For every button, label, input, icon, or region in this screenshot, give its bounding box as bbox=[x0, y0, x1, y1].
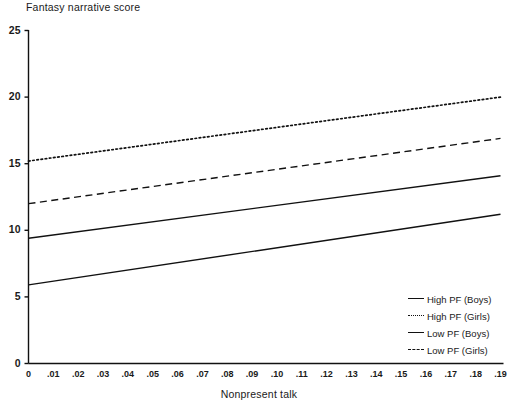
series-line bbox=[29, 214, 501, 285]
x-tick-label: .09 bbox=[238, 369, 266, 379]
x-tick-label: .02 bbox=[64, 369, 92, 379]
series-line bbox=[29, 176, 501, 239]
x-tick-label: .14 bbox=[362, 369, 390, 379]
x-tick-label: .15 bbox=[387, 369, 415, 379]
legend-item: High PF (Boys) bbox=[408, 291, 491, 307]
legend-line-sample-icon bbox=[408, 329, 424, 337]
x-tick-label: .12 bbox=[313, 369, 341, 379]
legend-line-sample-icon bbox=[408, 312, 424, 320]
x-tick-label: 0 bbox=[15, 369, 43, 379]
legend-line-sample-icon bbox=[408, 346, 424, 354]
x-tick-label: .18 bbox=[462, 369, 490, 379]
x-tick-label: .16 bbox=[412, 369, 440, 379]
legend-line-sample-icon bbox=[408, 295, 424, 303]
legend-item: Low PF (Boys) bbox=[408, 325, 489, 341]
x-tick-label: .01 bbox=[39, 369, 67, 379]
x-tick-label: .10 bbox=[263, 369, 291, 379]
x-axis-title: Nonpresent talk bbox=[0, 388, 518, 400]
y-tick-label: 20 bbox=[0, 90, 21, 102]
line-chart: Fantasy narrative score 0510152025 0.01.… bbox=[0, 0, 518, 409]
y-tick-label: 0 bbox=[0, 357, 21, 369]
x-tick-label: .08 bbox=[213, 369, 241, 379]
x-tick-label: .19 bbox=[487, 369, 515, 379]
legend-item-label: High PF (Girls) bbox=[427, 311, 490, 322]
data-series bbox=[29, 97, 501, 285]
x-tick-label: .11 bbox=[288, 369, 316, 379]
x-tick-label: .07 bbox=[188, 369, 216, 379]
legend-item-label: Low PF (Girls) bbox=[427, 345, 488, 356]
y-tick-label: 5 bbox=[0, 290, 21, 302]
x-tick-label: .13 bbox=[337, 369, 365, 379]
x-tick-label: .04 bbox=[114, 369, 142, 379]
legend-item-label: Low PF (Boys) bbox=[427, 328, 489, 339]
series-line bbox=[29, 138, 501, 203]
x-tick-label: .17 bbox=[437, 369, 465, 379]
series-line bbox=[29, 97, 501, 161]
x-tick-label: .05 bbox=[139, 369, 167, 379]
legend-item-label: High PF (Boys) bbox=[427, 294, 491, 305]
legend-item: High PF (Girls) bbox=[408, 308, 490, 324]
y-tick-label: 10 bbox=[0, 223, 21, 235]
x-tick-label: .03 bbox=[89, 369, 117, 379]
y-tick-label: 15 bbox=[0, 157, 21, 169]
y-tick-label: 25 bbox=[0, 24, 21, 36]
x-tick-label: .06 bbox=[164, 369, 192, 379]
legend-item: Low PF (Girls) bbox=[408, 342, 488, 358]
